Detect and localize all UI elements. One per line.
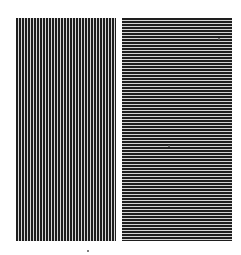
grating-figure: [0, 0, 241, 255]
scan-speck: [87, 250, 89, 252]
scan-speck: [218, 38, 220, 40]
horizontal-grating-panel: [122, 18, 232, 241]
scan-speck: [168, 145, 170, 147]
vertical-grating-panel: [16, 18, 116, 241]
